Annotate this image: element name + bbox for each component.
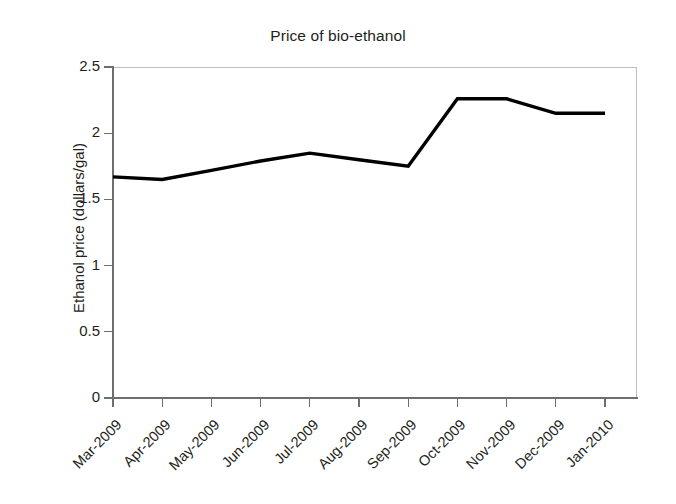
x-tick-mark	[358, 398, 359, 407]
y-tick-label: 0.5	[24, 322, 100, 340]
y-axis-title-label: Ethanol price (dollars/gal)	[70, 58, 87, 398]
y-tick-label-text: 1	[30, 256, 100, 273]
y-tick-mark	[104, 66, 113, 67]
x-tick-mark	[260, 398, 261, 407]
y-tick-label: 1	[24, 256, 100, 274]
y-tick-label: 1.5	[24, 189, 100, 207]
y-tick-label-text: 0.5	[30, 322, 100, 339]
y-tick-label: 2	[24, 123, 100, 141]
chart-title: Price of bio-ethanol	[0, 27, 676, 45]
x-tick-mark	[211, 398, 212, 407]
y-tick-label: 0	[24, 388, 100, 406]
y-tick-mark	[104, 133, 113, 134]
y-tick-mark	[104, 331, 113, 332]
chart-screenshot: Price of bio-ethanol Ethanol price (doll…	[0, 0, 676, 504]
x-tick-mark	[457, 398, 458, 407]
y-tick-mark	[104, 199, 113, 200]
y-tick-label-text: 2.5	[30, 57, 100, 74]
x-tick-mark	[506, 398, 507, 407]
y-tick-label: 2.5	[24, 57, 100, 75]
x-tick-mark	[604, 398, 605, 407]
x-tick-mark	[162, 398, 163, 407]
y-tick-label-text: 0	[30, 388, 100, 405]
y-tick-label-text: 1.5	[30, 189, 100, 206]
x-axis-spine	[112, 397, 638, 399]
plot-area	[113, 67, 637, 398]
x-tick-mark	[112, 398, 113, 407]
x-tick-mark	[309, 398, 310, 407]
x-tick-mark	[555, 398, 556, 407]
x-tick-mark	[408, 398, 409, 407]
y-tick-label-text: 2	[30, 123, 100, 140]
y-tick-mark	[104, 265, 113, 266]
y-axis-spine	[112, 66, 114, 399]
